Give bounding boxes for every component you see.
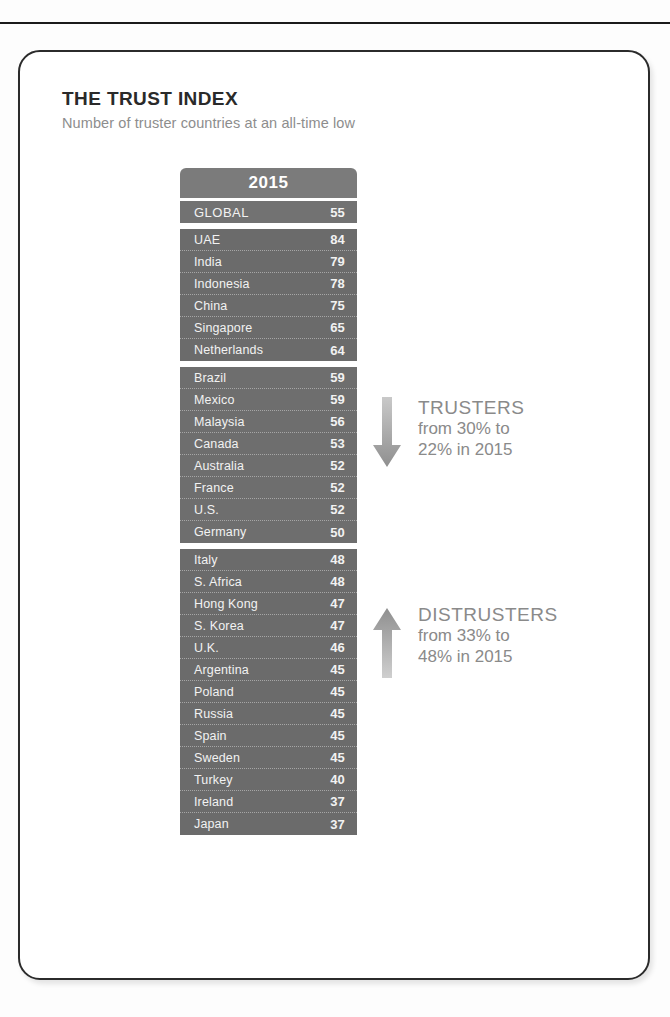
table-row: U.S.52: [180, 499, 357, 521]
table-cell-value: 40: [323, 772, 345, 787]
table-column-header-year: 2015: [180, 168, 357, 198]
table-row: Italy48: [180, 549, 357, 571]
table-cell-value: 45: [323, 662, 345, 677]
table-group-trusters-high: UAE84India79Indonesia78China75Singapore6…: [180, 229, 357, 361]
table-cell-country: Turkey: [194, 773, 233, 787]
table-cell-country: Japan: [194, 817, 229, 831]
annotation-distrusters-line2: 48% in 2015: [418, 647, 558, 667]
table-row: Sweden45: [180, 747, 357, 769]
table-row: U.K.46: [180, 637, 357, 659]
infographic-card: THE TRUST INDEX Number of truster countr…: [18, 50, 650, 980]
table-row: GLOBAL55: [180, 201, 357, 223]
table-row: Ireland37: [180, 791, 357, 813]
table-cell-country: France: [194, 481, 234, 495]
annotation-distrusters-text: DISTRUSTERS from 33% to 48% in 2015: [418, 604, 558, 667]
table-cell-country: Indonesia: [194, 277, 250, 291]
table-cell-value: 52: [323, 480, 345, 495]
table-cell-value: 48: [323, 552, 345, 567]
table-cell-value: 84: [323, 232, 345, 247]
table-row: Singapore65: [180, 317, 357, 339]
table-row: Australia52: [180, 455, 357, 477]
table-body: GLOBAL55UAE84India79Indonesia78China75Si…: [180, 201, 357, 835]
table-cell-country: UAE: [194, 233, 220, 247]
table-cell-value: 79: [323, 254, 345, 269]
table-group-distrusters: Italy48S. Africa48Hong Kong47S. Korea47U…: [180, 549, 357, 835]
table-cell-country: Argentina: [194, 663, 249, 677]
table-row: Spain45: [180, 725, 357, 747]
table-row: Brazil59: [180, 367, 357, 389]
table-cell-value: 75: [323, 298, 345, 313]
arrow-up-icon: [372, 604, 402, 678]
table-cell-value: 47: [323, 596, 345, 611]
annotation-distrusters: DISTRUSTERS from 33% to 48% in 2015: [372, 604, 558, 678]
table-row: Poland45: [180, 681, 357, 703]
table-cell-country: GLOBAL: [194, 205, 249, 220]
top-divider-rule: [0, 22, 670, 24]
table-cell-value: 37: [323, 794, 345, 809]
annotation-trusters: TRUSTERS from 30% to 22% in 2015: [372, 397, 524, 471]
table-row: France52: [180, 477, 357, 499]
annotation-trusters-heading: TRUSTERS: [418, 397, 524, 419]
table-cell-value: 55: [323, 205, 345, 220]
page-title: THE TRUST INDEX: [62, 88, 238, 110]
table-cell-country: Singapore: [194, 321, 252, 335]
table-cell-value: 52: [323, 502, 345, 517]
arrow-down-icon: [372, 397, 402, 471]
table-cell-value: 53: [323, 436, 345, 451]
table-cell-value: 78: [323, 276, 345, 291]
table-cell-value: 47: [323, 618, 345, 633]
table-cell-value: 64: [323, 343, 345, 358]
table-cell-value: 45: [323, 750, 345, 765]
table-row: Hong Kong47: [180, 593, 357, 615]
table-cell-country: Spain: [194, 729, 227, 743]
table-cell-value: 65: [323, 320, 345, 335]
table-cell-value: 45: [323, 706, 345, 721]
table-cell-country: Hong Kong: [194, 597, 258, 611]
table-cell-value: 37: [323, 817, 345, 832]
table-row: Turkey40: [180, 769, 357, 791]
table-row: Indonesia78: [180, 273, 357, 295]
table-cell-value: 56: [323, 414, 345, 429]
table-cell-country: Mexico: [194, 393, 235, 407]
table-row: Germany50: [180, 521, 357, 543]
table-cell-country: Canada: [194, 437, 239, 451]
table-cell-country: S. Africa: [194, 575, 242, 589]
table-row: S. Africa48: [180, 571, 357, 593]
table-cell-value: 59: [323, 370, 345, 385]
table-row: Mexico59: [180, 389, 357, 411]
table-group-global: GLOBAL55: [180, 201, 357, 223]
table-row: Russia45: [180, 703, 357, 725]
table-cell-country: Malaysia: [194, 415, 245, 429]
trust-index-table: 2015 GLOBAL55UAE84India79Indonesia78Chin…: [180, 168, 357, 835]
table-cell-value: 45: [323, 684, 345, 699]
table-row: India79: [180, 251, 357, 273]
table-cell-country: Russia: [194, 707, 233, 721]
table-cell-country: Australia: [194, 459, 244, 473]
table-row: S. Korea47: [180, 615, 357, 637]
table-cell-country: Poland: [194, 685, 234, 699]
table-row: China75: [180, 295, 357, 317]
table-cell-country: Sweden: [194, 751, 240, 765]
table-row: Malaysia56: [180, 411, 357, 433]
table-cell-value: 48: [323, 574, 345, 589]
table-cell-value: 52: [323, 458, 345, 473]
table-cell-value: 59: [323, 392, 345, 407]
annotation-trusters-line1: from 30% to: [418, 419, 524, 439]
table-row: UAE84: [180, 229, 357, 251]
table-cell-country: India: [194, 255, 222, 269]
table-cell-country: Netherlands: [194, 343, 263, 357]
annotation-distrusters-heading: DISTRUSTERS: [418, 604, 558, 626]
table-row: Argentina45: [180, 659, 357, 681]
page-subtitle: Number of truster countries at an all-ti…: [62, 115, 355, 131]
annotation-distrusters-line1: from 33% to: [418, 626, 558, 646]
annotation-trusters-text: TRUSTERS from 30% to 22% in 2015: [418, 397, 524, 460]
table-cell-value: 45: [323, 728, 345, 743]
table-cell-country: S. Korea: [194, 619, 244, 633]
table-cell-country: Ireland: [194, 795, 233, 809]
table-cell-country: Brazil: [194, 371, 226, 385]
table-cell-value: 46: [323, 640, 345, 655]
table-row: Netherlands64: [180, 339, 357, 361]
table-group-neutral: Brazil59Mexico59Malaysia56Canada53Austra…: [180, 367, 357, 543]
table-cell-country: Italy: [194, 553, 218, 567]
table-row: Japan37: [180, 813, 357, 835]
